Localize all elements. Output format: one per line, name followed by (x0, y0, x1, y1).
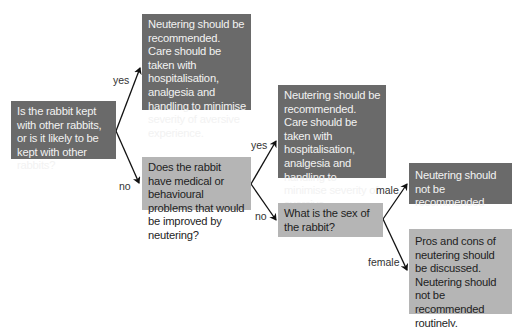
edge-label-yes-1: yes (113, 74, 129, 86)
edge-label-female: female (368, 256, 400, 268)
edge-label-yes-2: yes (251, 139, 267, 151)
outcome-male-not-recommended: Neutering should not be recommended (409, 163, 512, 204)
outcome-female-discuss: Pros and cons of neutering should be dis… (409, 229, 512, 314)
outcome-neuter-recommended-1: Neutering should be recommended. Care sh… (142, 14, 251, 110)
outcome-neuter-recommended-2: Neutering should be recommended. Care sh… (278, 85, 386, 178)
question-sex-of-rabbit: What is the sex of the rabbit? (278, 203, 383, 237)
arrow-no-1 (116, 131, 139, 183)
question-medical-behavioural-problems: Does the rabbit have medical or behaviou… (142, 157, 251, 210)
edge-label-no-1: no (119, 180, 131, 192)
edge-label-male: male (376, 184, 399, 196)
edge-label-no-2: no (255, 210, 267, 222)
question-kept-with-other-rabbits: Is the rabbit kept with other rabbits, o… (11, 101, 116, 159)
